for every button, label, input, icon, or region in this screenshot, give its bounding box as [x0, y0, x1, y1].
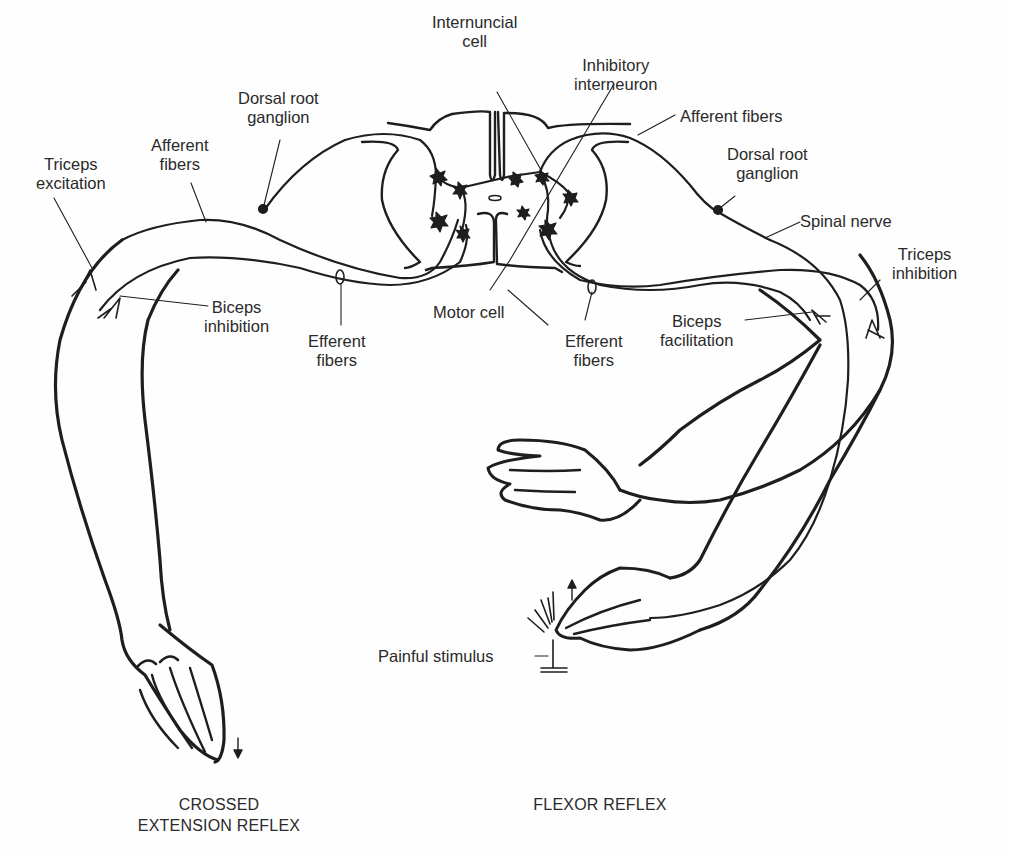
stimulus-pin-icon [528, 592, 567, 672]
label-triceps-excitation: Triceps excitation [36, 155, 106, 193]
label-biceps-facilitation: Biceps facilitation [660, 312, 733, 350]
label-spinal-nerve: Spinal nerve [800, 212, 892, 231]
label-dorsal-root-ganglion-left: Dorsal root ganglion [238, 89, 319, 127]
label-afferent-fibers-right: Afferent fibers [680, 107, 782, 126]
label-triceps-inhibition: Triceps inhibition [892, 245, 957, 283]
up-arrow-icon [568, 580, 576, 600]
label-painful-stimulus: Painful stimulus [378, 647, 494, 666]
label-inhibitory-interneuron: Inhibitory interneuron [574, 56, 657, 94]
label-afferent-fibers-left: Afferent fibers [151, 136, 208, 174]
label-biceps-inhibition: Biceps inhibition [204, 298, 269, 336]
label-efferent-fibers-left: Efferent fibers [308, 332, 365, 370]
caption-crossed-extension-reflex: CROSSED EXTENSION REFLEX [124, 794, 314, 836]
left-arm-extended [55, 240, 224, 762]
right-nerve-endings [812, 310, 884, 338]
label-motor-cell: Motor cell [433, 303, 505, 322]
crossed-extension-flexor-reflex-diagram: Internuncial cell Inhibitory interneuron… [0, 0, 1009, 853]
label-internuncial-cell: Internuncial cell [432, 13, 517, 51]
label-efferent-fibers-right: Efferent fibers [565, 332, 622, 370]
down-arrow-icon [234, 738, 242, 758]
label-dorsal-root-ganglion-right: Dorsal root ganglion [727, 145, 808, 183]
caption-flexor-reflex: FLEXOR REFLEX [525, 794, 675, 815]
diagram-artwork [0, 0, 1009, 853]
